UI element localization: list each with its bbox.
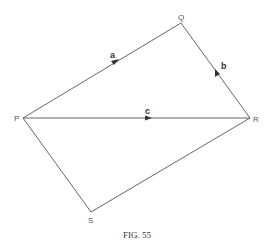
vertex-label-p: P [14, 114, 19, 123]
figure-caption: FIG. 55 [123, 230, 152, 240]
edge-sp [23, 118, 91, 212]
arrowhead-c-icon [145, 116, 152, 121]
vertex-label-q: Q [178, 13, 184, 22]
vector-label-c: c [145, 106, 150, 116]
vertex-label-r: R [253, 115, 259, 124]
vector-parallelogram-figure: Q P R S a b c FIG. 55 [0, 0, 272, 242]
vector-label-a: a [110, 50, 116, 60]
vertex-label-s: S [88, 216, 93, 225]
vector-label-b: b [221, 61, 227, 71]
edge-pq [23, 23, 181, 118]
edge-rs [91, 118, 250, 212]
